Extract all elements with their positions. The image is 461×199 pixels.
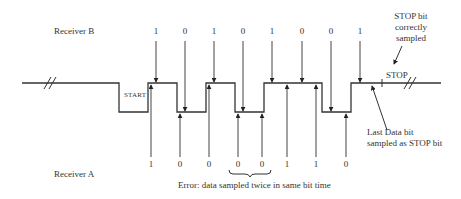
receiver-a-bit: 1 (311, 160, 321, 169)
start-bit-label: START (124, 92, 146, 99)
receiver-b-bit: 0 (297, 27, 307, 36)
receiver-b-bit: 0 (238, 27, 248, 36)
annotation-line: sampled (386, 33, 436, 44)
receiver-b-bit: 1 (267, 27, 277, 36)
receiver-a-label: Receiver A (54, 170, 94, 179)
annotation-line: Last Data bit (367, 127, 442, 138)
stop-correct-annotation: STOP bit correctly sampled (386, 11, 436, 44)
receiver-b-bit: 1 (355, 27, 365, 36)
error-annotation: Error: data sampled twice in same bit ti… (178, 181, 331, 190)
error-brace (229, 170, 271, 177)
receiver-b-sample-arrows (156, 41, 360, 111)
receiver-a-bit: 0 (204, 160, 214, 169)
annotation-line: sampled as STOP bit (367, 138, 442, 149)
receiver-a-bit: 0 (233, 160, 243, 169)
receiver-b-bit: 0 (180, 27, 190, 36)
annotation-line: correctly (386, 22, 436, 33)
serial-waveform (22, 83, 441, 112)
receiver-b-bit: 0 (326, 27, 336, 36)
receiver-a-sample-arrows (151, 85, 346, 157)
receiver-a-bit: 0 (341, 160, 351, 169)
receiver-a-bit: 0 (175, 160, 185, 169)
receiver-b-bit: 1 (151, 27, 161, 36)
receiver-a-bit: 0 (257, 160, 267, 169)
receiver-b-label: Receiver B (54, 27, 94, 36)
annotation-line: STOP bit (386, 11, 436, 22)
receiver-a-bit: 1 (282, 160, 292, 169)
last-data-pointer (372, 86, 387, 130)
last-data-annotation: Last Data bit sampled as STOP bit (367, 127, 442, 149)
stop-correct-pointer (394, 46, 402, 64)
stop-bit-label: STOP (386, 71, 408, 80)
receiver-a-bit: 1 (146, 160, 156, 169)
receiver-b-bit: 1 (209, 27, 219, 36)
